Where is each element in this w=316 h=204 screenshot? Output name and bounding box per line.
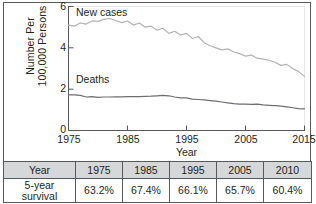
y-tick-label-2: 2	[52, 83, 66, 93]
x-tick-label-1995: 1995	[170, 133, 204, 145]
table-cell-survival-1995: 66.1%	[170, 179, 217, 203]
y-tick-label-4: 4	[52, 42, 66, 52]
y-axis-title: Number Per 100,000 Persons	[23, 0, 49, 106]
y-tick-label-6: 6	[52, 1, 66, 11]
x-tick-label-1975: 1975	[52, 133, 86, 145]
x-tick-label-2015: 2015	[287, 133, 316, 145]
y-axis-tick-labels: 6 4 2 0	[48, 6, 66, 131]
table-row-label-5-year-survival: 5-year survival	[4, 179, 76, 203]
y-axis-title-line-1: Number Per	[24, 17, 36, 75]
table-header-cell-2005: 2005	[217, 162, 264, 179]
table-header-cell-1975: 1975	[76, 162, 123, 179]
series-annotation-new-cases: New cases	[76, 7, 127, 18]
table-cell-survival-1985: 67.4%	[123, 179, 170, 203]
table-row-label-line-1: 5-year	[4, 180, 75, 191]
x-axis-title: Year	[68, 146, 305, 158]
table-row-label-line-2: survival	[4, 191, 75, 202]
plot-svg	[68, 6, 305, 131]
table-header-row: Year 1975 1985 1995 2005 2010	[4, 162, 312, 179]
table-header-cell-2010: 2010	[264, 162, 312, 179]
table-cell-survival-1975: 63.2%	[76, 179, 123, 203]
line-chart: Number Per 100,000 Persons 6 4 2 0	[4, 3, 310, 160]
y-axis-title-line-2: 100,000 Persons	[36, 6, 48, 87]
table-cell-survival-2005: 65.7%	[217, 179, 264, 203]
x-tick-label-2005: 2005	[229, 133, 263, 145]
series-annotation-deaths: Deaths	[76, 74, 109, 85]
table-header-cell-1985: 1985	[123, 162, 170, 179]
plot-area: New cases Deaths	[68, 6, 305, 131]
table-row: 5-year survival 63.2% 67.4% 66.1% 65.7% …	[4, 179, 312, 203]
survival-data-table: Year 1975 1985 1995 2005 2010 5-year sur…	[3, 161, 312, 203]
table-header-cell-year: Year	[4, 162, 76, 179]
plot-box	[69, 7, 305, 131]
x-tick-label-1985: 1985	[111, 133, 145, 145]
x-axis-tick-labels: 1975 1985 1995 2005 2015	[68, 133, 308, 147]
table-cell-survival-2010: 60.4%	[264, 179, 312, 203]
figure-container: Number Per 100,000 Persons 6 4 2 0	[0, 0, 316, 204]
table-header-cell-1995: 1995	[170, 162, 217, 179]
